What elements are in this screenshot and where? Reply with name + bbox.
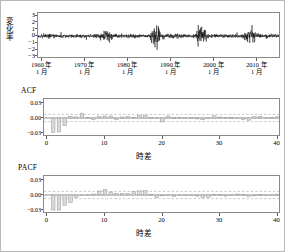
series-xtick-label: 1970 年1 月 [63,61,105,76]
pacf-xtick-label: 40 [265,216,285,223]
acf-xtick-label: 30 [207,139,231,146]
acf-ytick-label: −0.03 [9,129,41,136]
series-xtick-month: 1 月 [106,68,148,75]
series-xtick-year: 2010 年 [235,61,277,68]
series-xtick-year: 1970 年 [63,61,105,68]
series-xtick-label: 1960 年1 月 [20,61,62,76]
series-xtick-month: 1 月 [149,68,191,75]
series-xtick-month: 1 月 [63,68,105,75]
series-panel: 変化率 3210−1−2−3 1960 年1 月1970 年1 月1980 年1… [1,1,285,85]
pacf-ytick-label: −0.03 [9,206,41,213]
series-plot-area [37,12,280,58]
pacf-label: PACF [18,163,37,172]
pacf-xtick-label: 20 [150,216,174,223]
pacf-xtick-label: 10 [92,216,116,223]
series-xtick-year: 1990 年 [149,61,191,68]
series-ylabel: 変化率 [5,17,13,59]
acf-xtick-label: 0 [34,139,58,146]
series-xtick-label: 1990 年1 月 [149,61,191,76]
pacf-ytick-label: 0.03 [9,176,41,183]
pacf-bar-chart [44,176,280,213]
series-xtick-year: 1980 年 [106,61,148,68]
pacf-ytick-label: 0.00 [9,191,41,198]
figure-container: 変化率 3210−1−2−3 1960 年1 月1970 年1 月1980 年1… [0,0,285,252]
series-xtick-month: 1 月 [192,68,234,75]
series-xtick-year: 1960 年 [20,61,62,68]
acf-xtick-label: 40 [265,139,285,146]
pacf-panel: PACF 0.030.00−0.03 010203040 時差 [1,162,285,242]
pacf-xtick-label: 0 [34,216,58,223]
acf-xlabel: 時差 [1,150,285,161]
acf-xtick-label: 20 [150,139,174,146]
series-line-chart [38,13,280,58]
series-xtick-month: 1 月 [20,68,62,75]
pacf-xlabel: 時差 [1,227,285,238]
acf-plot-area [43,98,280,136]
series-ytick-label: −3 [21,52,35,59]
acf-bar-chart [44,99,280,136]
acf-ytick-label: 0.03 [9,99,41,106]
series-xtick-label: 2010 年1 月 [235,61,277,76]
pacf-plot-area [43,175,280,213]
series-xtick-month: 1 月 [235,68,277,75]
series-xtick-year: 2000 年 [192,61,234,68]
series-xtick-label: 2000 年1 月 [192,61,234,76]
acf-ytick-label: 0.00 [9,114,41,121]
acf-xtick-label: 10 [92,139,116,146]
series-xtick-label: 1980 年1 月 [106,61,148,76]
acf-panel: ACF 0.030.00−0.03 010203040 時差 [1,85,285,163]
pacf-xtick-label: 30 [207,216,231,223]
acf-label: ACF [21,86,36,95]
